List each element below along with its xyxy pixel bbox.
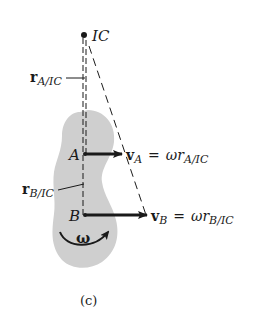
velocity-b-equation: vB=ωrB/IC bbox=[150, 208, 234, 227]
point-a-label: A bbox=[67, 146, 80, 164]
point-b-label: B bbox=[68, 207, 80, 225]
instantaneous-center-diagram: IC rA/IC rB/IC A B vA=ωrA/IC vB=ωrB/IC ω… bbox=[0, 0, 258, 326]
r-b-ic-label: rB/IC bbox=[22, 181, 55, 200]
r-a-ic-label: rA/IC bbox=[30, 69, 62, 88]
ic-label: IC bbox=[91, 27, 110, 45]
velocity-a-equation: vA=ωrA/IC bbox=[125, 147, 209, 166]
omega-label: ω bbox=[76, 229, 90, 247]
ic-point-icon bbox=[81, 32, 87, 38]
figure-caption: (c) bbox=[80, 293, 97, 308]
